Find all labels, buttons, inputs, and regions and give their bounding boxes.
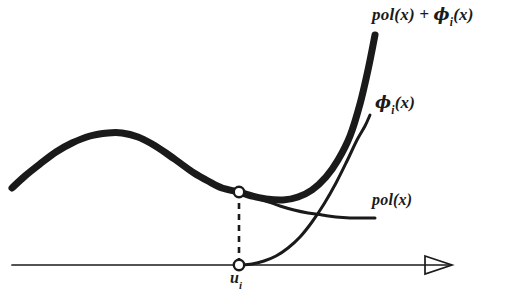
label-sum-tail: (x) xyxy=(453,5,473,24)
label-u-i: ui xyxy=(230,270,242,289)
label-ui-subscript: i xyxy=(239,279,242,291)
label-pol-text: pol(x) xyxy=(372,191,412,208)
label-ui-base: u xyxy=(230,269,239,286)
figure-background xyxy=(0,0,507,296)
phi-glyph-icon: ϕ xyxy=(375,92,391,112)
math-figure: pol(x) + ϕi(x) ϕi(x) pol(x) ui xyxy=(0,0,507,296)
label-phi-tail: (x) xyxy=(395,93,415,112)
label-pol: pol(x) xyxy=(372,192,412,208)
label-sum-subscript: i xyxy=(450,16,453,29)
label-phi-subscript: i xyxy=(391,104,394,117)
phi-glyph-icon: ϕ xyxy=(434,4,450,24)
figure-canvas xyxy=(0,0,507,296)
label-phi-i: ϕi(x) xyxy=(375,94,415,115)
label-sum-head: pol(x) + xyxy=(372,5,434,24)
tangency-point-marker xyxy=(234,187,244,197)
label-pol-plus-phi: pol(x) + ϕi(x) xyxy=(372,6,474,27)
